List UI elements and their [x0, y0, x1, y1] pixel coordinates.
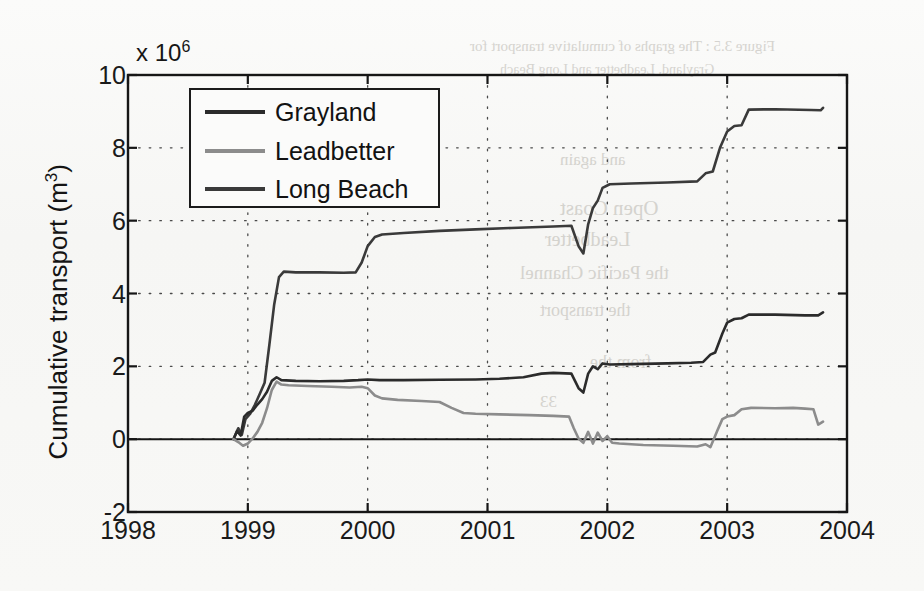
chart-legend: GraylandLeadbetterLong Beach [189, 88, 440, 208]
legend-item-grayland: Grayland [191, 92, 438, 132]
y-tick-label-8: 8 [112, 133, 126, 162]
x-tick-label-2004: 2004 [819, 516, 875, 545]
y-axis-exponent-label: x 106 [136, 38, 190, 67]
x-tick-label-2002: 2002 [580, 516, 636, 545]
x-tick-label-2000: 2000 [340, 516, 396, 545]
x-tick-label-1999: 1999 [220, 516, 276, 545]
y-tick-label-6: 6 [112, 206, 126, 235]
legend-item-leadbetter: Leadbetter [191, 131, 438, 171]
legend-item-label: Long Beach [275, 177, 408, 202]
legend-item-label: Leadbetter [275, 139, 395, 164]
legend-item-label: Grayland [275, 100, 376, 125]
figure-cumulative-transport: x 106 Cumulative transport (m3) 1086420-… [0, 0, 924, 591]
y-axis-tick-labels: 1086420-2 [48, 0, 126, 591]
y-tick-label-0: 0 [112, 425, 126, 454]
y-tick-label-4: 4 [112, 279, 126, 308]
series-line-grayland [233, 312, 823, 439]
y-axis-exponent-power: 6 [181, 38, 190, 55]
legend-swatch-line-icon [205, 149, 265, 153]
legend-swatch-line-icon [205, 110, 265, 114]
x-tick-label-2001: 2001 [460, 516, 516, 545]
x-tick-label-1998: 1998 [100, 516, 156, 545]
series-line-leadbetter [233, 382, 823, 448]
legend-item-long-beach: Long Beach [191, 169, 438, 209]
y-tick-label-10: 10 [98, 61, 126, 90]
x-tick-label-2003: 2003 [699, 516, 755, 545]
legend-swatch-line-icon [205, 187, 265, 191]
y-axis-exponent-base: x 10 [136, 39, 181, 66]
plot-canvas [0, 0, 924, 591]
y-tick-label-2: 2 [112, 352, 126, 381]
